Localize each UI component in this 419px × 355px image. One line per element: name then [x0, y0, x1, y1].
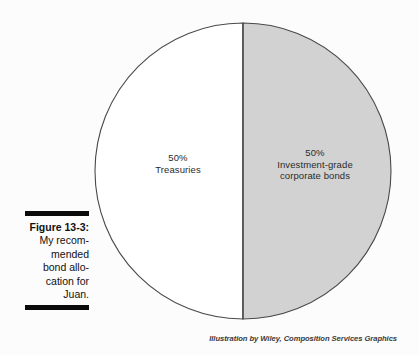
caption-rule-bottom [25, 305, 89, 310]
pie-label-corporate-bonds-percent: 50% [250, 147, 380, 159]
pie-label-corporate-bonds: 50% Investment-grade corporate bonds [250, 147, 380, 182]
illustration-credit: Illustration by Wiley, Composition Servi… [0, 334, 397, 343]
pie-label-treasuries-name: Treasuries [128, 164, 228, 176]
pie-label-corporate-bonds-name-line1: Investment-grade [250, 159, 380, 171]
caption-line-1: My recom- [25, 234, 89, 247]
figure-caption: Figure 13-3: My recom- mended bond allo-… [25, 211, 89, 310]
figure-page: 50% Treasuries 50% Investment-grade corp… [0, 0, 419, 355]
caption-line-3: bond allo- [25, 261, 89, 274]
caption-text: Figure 13-3: My recom- mended bond allo-… [25, 221, 89, 301]
caption-figure-number: Figure 13-3: [25, 221, 89, 234]
pie-label-corporate-bonds-name-line2: corporate bonds [250, 170, 380, 182]
caption-rule-top [25, 211, 89, 216]
pie-label-treasuries: 50% Treasuries [128, 152, 228, 175]
pie-label-treasuries-percent: 50% [128, 152, 228, 164]
caption-line-4: cation for [25, 275, 89, 288]
caption-line-2: mended [25, 248, 89, 261]
caption-line-5: Juan. [25, 288, 89, 301]
